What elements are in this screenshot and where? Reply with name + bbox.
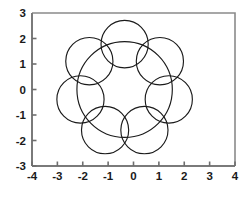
- axis-group: [32, 13, 235, 166]
- x-tick-label: 3: [206, 170, 212, 182]
- curve-group: [57, 20, 193, 153]
- x-tick-label: -4: [27, 170, 38, 182]
- x-tick-label: 1: [156, 170, 163, 182]
- petal-5: [81, 106, 128, 153]
- y-tick-label: -1: [16, 109, 27, 121]
- y-tick-label: 2: [20, 33, 26, 45]
- petal-4: [121, 106, 168, 153]
- y-tick-label: -2: [16, 135, 26, 147]
- y-tick-label: 1: [20, 58, 27, 70]
- x-tick-label: -2: [78, 170, 88, 182]
- central-circle: [77, 42, 172, 138]
- y-tick-label: 3: [20, 7, 26, 19]
- y-tick-label: 0: [20, 84, 26, 96]
- x-tick-label: 2: [181, 170, 187, 182]
- x-tick-label: -1: [103, 170, 114, 182]
- x-tick-label: -3: [52, 170, 62, 182]
- plot-frame: [32, 13, 235, 166]
- plot-area: -4-3-2-101234-3-2-10123: [0, 0, 247, 199]
- x-tick-label: 0: [130, 170, 136, 182]
- y-tick-label: -3: [16, 160, 26, 172]
- x-tick-label: 4: [232, 170, 239, 182]
- figure-canvas: -4-3-2-101234-3-2-10123: [0, 0, 247, 199]
- tick-label-group: -4-3-2-101234-3-2-10123: [16, 7, 239, 182]
